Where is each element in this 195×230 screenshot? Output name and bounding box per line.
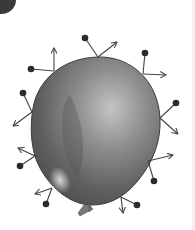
balloon-diagram	[0, 0, 195, 230]
particle-bottom-right	[121, 197, 140, 213]
balloon-knot	[78, 205, 93, 216]
particle-top-left	[28, 48, 54, 72]
particle-right	[160, 100, 179, 134]
balloon-figure	[0, 0, 195, 230]
particle-top-right	[142, 50, 166, 75]
particle-left-lower	[17, 148, 35, 169]
right-edge-divider	[192, 0, 195, 230]
particle-top	[82, 35, 117, 57]
particle-bottom-left	[35, 188, 52, 207]
particle-left	[13, 90, 32, 126]
